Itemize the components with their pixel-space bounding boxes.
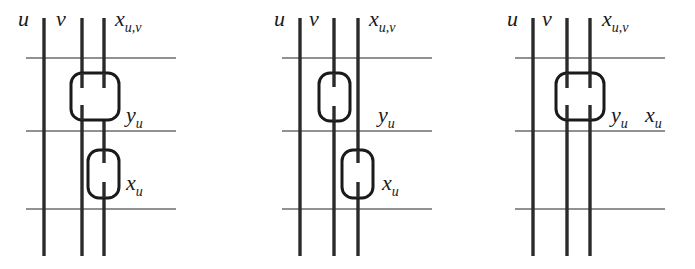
wire-label-xuv: xu,v bbox=[601, 6, 629, 35]
gate-x-u-box bbox=[88, 150, 119, 198]
panel-1: u v xu,v yu xu bbox=[0, 0, 232, 269]
panel-1-canvas: u v xu,v yu xu bbox=[0, 0, 232, 269]
gate-label-y-u: yu bbox=[609, 102, 628, 131]
gate-y-u-box bbox=[319, 73, 350, 121]
wire-label-v: v bbox=[542, 6, 552, 31]
gate-label-y-u: yu bbox=[124, 102, 143, 131]
vertical-wires bbox=[44, 18, 104, 256]
wire-label-u: u bbox=[18, 6, 29, 31]
wire-label-v: v bbox=[309, 6, 319, 31]
gate-y-u-box bbox=[71, 73, 119, 120]
panel-2: u v xu,v yu xu bbox=[232, 0, 464, 269]
gate-label-y-u: yu bbox=[376, 102, 395, 131]
vertical-wires bbox=[533, 18, 590, 256]
panel-2-canvas: u v xu,v yu xu bbox=[232, 0, 464, 269]
vertical-wires bbox=[300, 18, 358, 256]
circuit-diagram-figure: u v xu,v yu xu bbox=[0, 0, 695, 269]
wire-label-xuv: xu,v bbox=[368, 6, 396, 35]
panel-3-canvas: u v xu,v yu xu bbox=[464, 0, 695, 269]
wire-label-u: u bbox=[507, 6, 518, 31]
gate-y-u-x-u-box bbox=[556, 73, 604, 120]
wire-label-u: u bbox=[274, 6, 285, 31]
wire-label-v: v bbox=[56, 6, 66, 31]
gate-x-u-box bbox=[342, 150, 373, 198]
panel-3: u v xu,v yu xu bbox=[464, 0, 695, 269]
gate-label-x-u: xu bbox=[381, 170, 399, 199]
wire-label-xuv: xu,v bbox=[114, 6, 142, 35]
gate-label-x-u: xu bbox=[644, 102, 662, 131]
gate-label-x-u: xu bbox=[125, 170, 143, 199]
